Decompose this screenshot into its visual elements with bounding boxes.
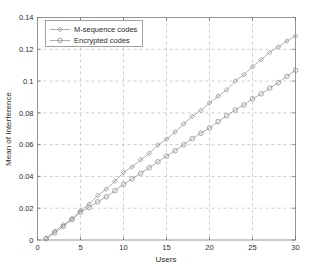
legend-label: Encrypted codes [74, 36, 130, 45]
line-chart: 051015202530 00.020.040.060.080.10.120.1… [0, 0, 312, 275]
data-series [44, 33, 298, 240]
y-tick-label: 0.08 [19, 109, 34, 118]
x-tick-label: 25 [248, 243, 256, 252]
y-tick-label: 0 [29, 236, 33, 245]
data-series [44, 68, 298, 241]
figure-container: 051015202530 00.020.040.060.080.10.120.1… [0, 0, 312, 275]
y-tick-label: 0.02 [19, 204, 34, 213]
axis-ticks [38, 18, 296, 241]
x-tick-label: 5 [78, 243, 82, 252]
y-tick-label: 0.06 [19, 140, 34, 149]
y-axis-title: Mean of Interference [4, 92, 13, 166]
data-series-group [44, 33, 298, 241]
x-axis-tick-labels: 051015202530 [35, 243, 299, 252]
x-tick-label: 30 [291, 243, 299, 252]
plot-frame [38, 18, 296, 241]
y-axis-tick-labels: 00.020.040.060.080.10.120.14 [19, 13, 34, 245]
chart-legend: M-sequence codesEncrypted codes [46, 21, 143, 47]
x-tick-label: 15 [162, 243, 170, 252]
series-line [46, 36, 295, 238]
x-tick-label: 0 [35, 243, 39, 252]
y-tick-label: 0.12 [19, 45, 34, 54]
y-tick-label: 0.04 [19, 172, 34, 181]
x-tick-label: 10 [119, 243, 127, 252]
x-tick-label: 20 [205, 243, 213, 252]
gridlines [38, 18, 296, 241]
series-line [46, 70, 295, 238]
x-axis-title: Users [156, 255, 177, 264]
y-tick-label: 0.14 [19, 13, 34, 22]
y-tick-label: 0.1 [23, 77, 33, 86]
legend-label: M-sequence codes [74, 25, 138, 34]
